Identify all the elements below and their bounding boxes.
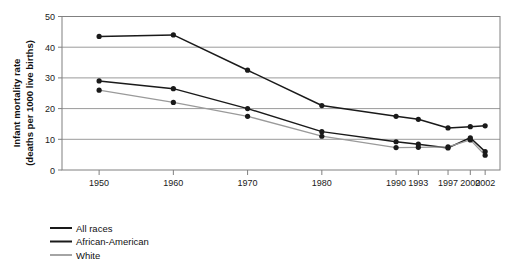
y-tick-label: 0 bbox=[50, 166, 55, 176]
data-point-marker bbox=[483, 153, 488, 158]
legend-label: White bbox=[76, 250, 100, 261]
x-tick-label: 1993 bbox=[408, 178, 428, 188]
data-point-marker bbox=[393, 114, 398, 119]
data-point-marker bbox=[416, 117, 421, 122]
y-tick-label: 50 bbox=[45, 12, 55, 22]
legend-label: All races bbox=[76, 223, 113, 234]
y-axis-title-line1: Infant mortality rate bbox=[11, 59, 22, 148]
y-tick-label: 30 bbox=[45, 73, 55, 83]
y-tick-label: 10 bbox=[45, 135, 55, 145]
y-axis-title-line2: (deaths per 1000 live births) bbox=[24, 40, 35, 166]
x-tick-label: 1950 bbox=[89, 178, 109, 188]
data-point-marker bbox=[393, 139, 398, 144]
legend-label: African-American bbox=[76, 236, 149, 247]
data-point-marker bbox=[171, 86, 176, 91]
data-point-marker bbox=[97, 78, 102, 83]
x-tick-label: 1970 bbox=[238, 178, 258, 188]
data-point-marker bbox=[97, 88, 102, 93]
data-point-marker bbox=[245, 68, 250, 73]
data-point-marker bbox=[245, 106, 250, 111]
data-point-marker bbox=[468, 137, 473, 142]
x-tick-label: 1960 bbox=[163, 178, 183, 188]
chart-container: Infant mortality rate (deaths per 1000 l… bbox=[0, 0, 515, 268]
data-point-marker bbox=[97, 34, 102, 39]
data-point-marker bbox=[171, 32, 176, 37]
data-point-marker bbox=[445, 144, 450, 149]
data-point-marker bbox=[445, 125, 450, 130]
y-tick-label: 20 bbox=[45, 104, 55, 114]
data-point-marker bbox=[319, 129, 324, 134]
data-point-marker bbox=[319, 103, 324, 108]
x-tick-label: 1990 bbox=[386, 178, 406, 188]
data-point-marker bbox=[483, 123, 488, 128]
data-point-marker bbox=[319, 134, 324, 139]
data-point-marker bbox=[393, 145, 398, 150]
data-point-marker bbox=[245, 114, 250, 119]
x-tick-label: 1980 bbox=[312, 178, 332, 188]
y-tick-label: 40 bbox=[45, 43, 55, 53]
data-point-marker bbox=[468, 124, 473, 129]
data-point-marker bbox=[171, 100, 176, 105]
x-tick-label: 2002 bbox=[475, 178, 495, 188]
data-point-marker bbox=[416, 145, 421, 150]
x-tick-label: 1997 bbox=[438, 178, 458, 188]
infant-mortality-line-chart: Infant mortality rate (deaths per 1000 l… bbox=[0, 0, 515, 268]
